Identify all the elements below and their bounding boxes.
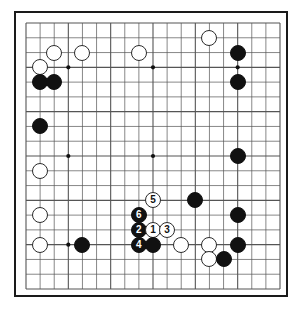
stone-white[interactable] (32, 163, 48, 179)
stone-black[interactable] (230, 148, 246, 164)
stone-number-label: 6 (132, 208, 146, 222)
stone-black[interactable] (74, 237, 90, 253)
stone-white[interactable] (32, 207, 48, 223)
stone-black[interactable] (230, 45, 246, 61)
stone-move-6[interactable]: 6 (131, 207, 147, 223)
stone-white[interactable] (46, 45, 62, 61)
stone-white[interactable] (32, 237, 48, 253)
stone-white[interactable] (201, 237, 217, 253)
stone-black[interactable] (145, 237, 161, 253)
stone-black[interactable] (46, 74, 62, 90)
stone-white[interactable] (32, 59, 48, 75)
go-board[interactable]: 562134 (14, 11, 288, 297)
stone-number-label: 5 (146, 193, 160, 207)
stone-white[interactable] (201, 30, 217, 46)
stone-black[interactable] (32, 118, 48, 134)
stone-black[interactable] (230, 237, 246, 253)
stone-white[interactable] (74, 45, 90, 61)
stone-move-3[interactable]: 3 (159, 222, 175, 238)
stone-number-label: 1 (146, 223, 160, 237)
stone-layer: 562134 (16, 13, 290, 299)
stone-number-label: 3 (160, 223, 174, 237)
stone-number-label: 2 (132, 223, 146, 237)
stone-black[interactable] (187, 192, 203, 208)
stone-black[interactable] (216, 251, 232, 267)
stone-number-label: 4 (132, 238, 146, 252)
go-board-diagram: 562134 (0, 0, 298, 309)
stone-white[interactable] (131, 45, 147, 61)
stone-move-5[interactable]: 5 (145, 192, 161, 208)
stone-black[interactable] (230, 207, 246, 223)
stone-white[interactable] (173, 237, 189, 253)
stone-black[interactable] (230, 74, 246, 90)
